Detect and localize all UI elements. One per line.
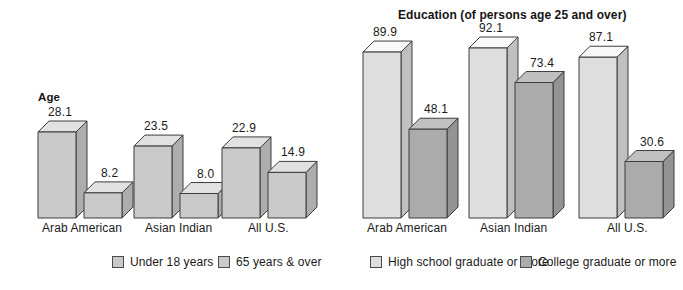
edu-bar-asian-college-side [553, 72, 564, 218]
age-chart-title: Age [38, 91, 60, 103]
legend-label-under-18-years: Under 18 years [130, 255, 213, 269]
category-label-asian-indian-age: Asian Indian [145, 221, 212, 235]
value-label-asian-hs: 92.1 [479, 21, 503, 35]
education-bars-group [341, 0, 683, 290]
age-bar-asian-under18-front [134, 146, 172, 218]
value-label-arab-hs: 89.9 [373, 25, 397, 39]
category-label-all-us-education: All U.S. [607, 221, 648, 235]
value-label-allus-college: 30.6 [640, 135, 664, 149]
value-label-arab-college: 48.1 [424, 102, 448, 116]
figure-canvas: Age 28.1 8.2 23.5 8.0 22.9 14.9 Arab Ame… [0, 0, 683, 290]
category-label-asian-indian-education: Asian Indian [480, 221, 547, 235]
edu-bar-asian-hs-front [469, 48, 507, 218]
edu-bar-allus-hs-front [579, 57, 617, 218]
legend-item-under-18-years[interactable]: Under 18 years [112, 255, 213, 269]
value-label-arab-under18: 28.1 [48, 105, 72, 119]
legend-item-college-graduate[interactable]: College graduate or more [520, 255, 676, 269]
chart-legend: Under 18 years 65 years & over High scho… [0, 255, 683, 277]
edu-bar-arab-hs-front [363, 52, 401, 218]
age-bar-arab-under18-front [38, 132, 76, 218]
chart-age: Age 28.1 8.2 23.5 8.0 22.9 14.9 Arab Ame… [0, 0, 341, 290]
age-bar-allus-65over-front [268, 172, 306, 218]
edu-bar-arab-college-front [409, 129, 447, 218]
age-bar-arab-65over-front [84, 193, 122, 218]
legend-swatch-high-school-graduate [370, 256, 382, 268]
legend-swatch-college-graduate [520, 256, 532, 268]
legend-swatch-under-18-years [112, 256, 124, 268]
edu-bar-arab-college-side [447, 118, 458, 218]
edu-bar-allus-college-front [625, 162, 663, 218]
value-label-asian-65over: 8.0 [197, 167, 214, 181]
value-label-arab-65over: 8.2 [101, 166, 118, 180]
legend-label-65-years-and-over: 65 years & over [236, 255, 322, 269]
legend-label-college-graduate: College graduate or more [538, 255, 676, 269]
category-label-all-us-age: All U.S. [248, 221, 289, 235]
legend-item-65-years-and-over[interactable]: 65 years & over [218, 255, 322, 269]
legend-swatch-65-years-and-over [218, 256, 230, 268]
value-label-allus-under18: 22.9 [232, 121, 256, 135]
value-label-allus-hs: 87.1 [589, 30, 613, 44]
chart-education: 89.9 48.1 92.1 73.4 87.1 30.6 Arab Ameri… [341, 0, 683, 290]
age-bar-asian-65over-front [180, 194, 218, 218]
edu-bar-allus-college-side [663, 151, 674, 218]
category-label-arab-american-age: Arab American [42, 221, 122, 235]
category-label-arab-american-education: Arab American [367, 221, 447, 235]
value-label-allus-65over: 14.9 [281, 145, 305, 159]
edu-bar-asian-college-front [515, 83, 553, 218]
value-label-asian-college: 73.4 [530, 56, 554, 70]
value-label-asian-under18: 23.5 [144, 119, 168, 133]
age-bar-allus-under18-front [222, 148, 260, 218]
education-chart-title: Education (of persons age 25 and over) [398, 8, 627, 22]
